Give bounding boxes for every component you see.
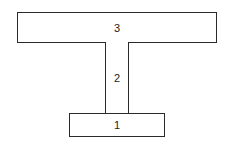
block-1: 1 xyxy=(69,113,165,137)
block-1-label: 1 xyxy=(114,119,120,131)
block-2: 2 xyxy=(105,42,129,114)
block-3-label: 3 xyxy=(114,22,120,34)
block-3: 3 xyxy=(17,12,217,43)
block-2-label: 2 xyxy=(114,72,120,84)
